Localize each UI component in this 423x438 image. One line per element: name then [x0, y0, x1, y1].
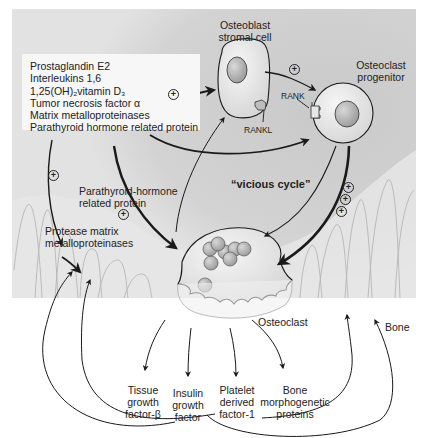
rank-label: RANK — [281, 90, 305, 102]
factor-line: derived — [212, 396, 262, 408]
factor-item: Interleukins 1,6 — [30, 72, 200, 84]
osteoblast-nucleus — [227, 57, 247, 83]
plus-icon: + — [343, 182, 354, 193]
progenitor-label-line1: Osteoclast — [351, 59, 411, 71]
released-factor-igf: Insulin growth factor — [166, 387, 210, 423]
factor-line: morphogenetic — [258, 396, 332, 408]
plus-icon: + — [168, 89, 179, 100]
released-factor-pdgf: Platelet derived factor-1 — [212, 384, 262, 420]
released-factor-tgfb: Tissue growth factor-β — [118, 384, 168, 420]
released-factor-bmp: Bone morphogenetic proteins — [258, 384, 332, 420]
factor-line: Platelet — [212, 384, 262, 396]
protease-label: Protease matrix metalloproteinases — [45, 225, 133, 249]
factor-line: factor-β — [118, 408, 168, 420]
bone-label: Bone — [385, 321, 410, 333]
arrow-release-igf — [188, 328, 191, 376]
factor-line: proteins — [258, 408, 332, 420]
plus-icon: + — [336, 206, 347, 217]
progenitor-label-line2: progenitor — [351, 71, 411, 83]
vicious-cycle-label: “vicious cycle” — [231, 178, 311, 190]
factor-line: Bone — [258, 384, 332, 396]
factor-line: Tissue — [118, 384, 168, 396]
arrow-release-pdgf — [230, 328, 236, 376]
factor-line: factor-1 — [212, 408, 262, 420]
factor-line: growth — [118, 396, 168, 408]
factor-line: factor — [166, 411, 210, 423]
pthrp-label: Parathyroid-hormone related protein — [79, 185, 178, 209]
pthrp-label-line1: Parathyroid-hormone — [79, 185, 178, 197]
pthrp-label-line2: related protein — [79, 197, 178, 209]
protease-label-line2: metalloproteinases — [45, 237, 133, 249]
factor-item: Parathyroid hormone related protein — [30, 121, 200, 133]
protease-label-line1: Protease matrix — [45, 225, 133, 237]
plus-icon: + — [289, 64, 300, 75]
factor-item: Prostaglandin E2 — [30, 60, 200, 72]
factor-line: growth — [166, 399, 210, 411]
osteoclast-progenitor-label: Osteoclast progenitor — [351, 59, 411, 83]
rankl-label: RANKL — [244, 124, 272, 136]
plus-icon: + — [118, 209, 129, 220]
plus-icon: + — [48, 170, 59, 181]
arrow-release-tgfb — [145, 320, 165, 370]
progenitor-nucleus — [335, 101, 359, 127]
osteoblast-cell — [218, 39, 270, 122]
osteoblast-label-line1: Osteoblast — [214, 19, 276, 31]
osteoblast-label: Osteoblast stromal cell — [214, 19, 276, 43]
factor-line: Insulin — [166, 387, 210, 399]
plus-icon: + — [340, 194, 351, 205]
osteoclast-label: Osteoclast — [258, 316, 308, 328]
rankl-receptor — [255, 100, 266, 110]
factor-item: Matrix metalloproteinases — [30, 109, 200, 121]
osteoblast-label-line2: stromal cell — [214, 31, 276, 43]
